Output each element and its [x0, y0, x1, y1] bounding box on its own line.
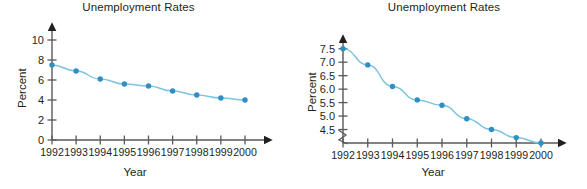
y-tick-label: 7.0 [320, 56, 335, 68]
x-tick-label: 1997 [161, 146, 185, 158]
x-tick-label: 1999 [209, 146, 233, 158]
chart-plot-left: 0246810199219931994199519961997199819992… [0, 0, 293, 189]
series-line [343, 49, 541, 143]
data-point-marker [390, 84, 395, 89]
y-tick-label: 2 [38, 114, 44, 126]
data-point-marker [73, 68, 78, 73]
chart-plot-right: 4.55.05.56.06.57.07.51992199319941995199… [293, 0, 587, 189]
y-tick-label: 5.5 [320, 97, 335, 109]
x-tick-label: 2000 [233, 146, 257, 158]
data-point-marker [242, 97, 247, 102]
x-tick-label: 1992 [40, 146, 64, 158]
x-tick-label: 1995 [405, 149, 429, 161]
data-point-marker [538, 140, 543, 145]
data-point-marker [365, 62, 370, 67]
data-point-marker [122, 81, 127, 86]
x-tick-label: 1996 [137, 146, 161, 158]
x-tick-label: 1998 [185, 146, 209, 158]
y-tick-label: 4 [38, 94, 44, 106]
x-tick-label: 1997 [455, 149, 479, 161]
data-point-marker [49, 62, 54, 67]
x-tick-label: 1992 [331, 149, 355, 161]
y-axis-label: Percent [306, 72, 318, 112]
series-line [52, 65, 245, 100]
x-axis-label: Year [293, 166, 573, 178]
chart-panel-right: Unemployment Rates 4.55.05.56.06.57.07.5… [293, 0, 587, 189]
data-point-marker [439, 103, 444, 108]
y-tick-label: 6 [38, 74, 44, 86]
data-point-marker [340, 46, 345, 51]
x-tick-label: 1994 [381, 149, 405, 161]
data-point-marker [194, 92, 199, 97]
data-point-marker [98, 76, 103, 81]
y-tick-label: 8 [38, 54, 44, 66]
x-tick-label: 2000 [529, 149, 553, 161]
data-point-marker [146, 83, 151, 88]
y-tick-label: 6.5 [320, 70, 335, 82]
chart-panel-left: Unemployment Rates 024681019921993199419… [0, 0, 293, 189]
x-tick-label: 1999 [504, 149, 528, 161]
x-tick-label: 1993 [64, 146, 88, 158]
data-point-marker [218, 95, 223, 100]
data-point-marker [464, 116, 469, 121]
data-point-marker [170, 88, 175, 93]
y-tick-label: 0 [38, 134, 44, 146]
x-tick-label: 1998 [480, 149, 504, 161]
x-tick-label: 1995 [113, 146, 137, 158]
data-point-marker [489, 127, 494, 132]
y-axis-label: Percent [16, 68, 28, 108]
unemployment-rates-figure: Unemployment Rates 024681019921993199419… [0, 0, 587, 189]
y-tick-label: 4.5 [320, 124, 335, 136]
x-tick-label: 1996 [430, 149, 454, 161]
y-tick-label: 6.0 [320, 83, 335, 95]
x-tick-label: 1994 [88, 146, 112, 158]
y-tick-label: 10 [32, 34, 44, 46]
data-point-marker [415, 97, 420, 102]
y-tick-label: 7.5 [320, 43, 335, 55]
y-tick-label: 5.0 [320, 110, 335, 122]
x-axis-label: Year [0, 166, 270, 178]
data-point-marker [514, 135, 519, 140]
x-tick-label: 1993 [356, 149, 380, 161]
